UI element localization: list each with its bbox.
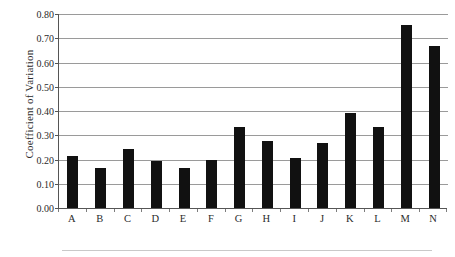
y-axis-tick-label: 0.30 bbox=[37, 130, 55, 141]
x-axis-category-label: B bbox=[86, 213, 114, 231]
x-axis-category-label: A bbox=[58, 213, 86, 231]
bar bbox=[290, 158, 301, 208]
bar bbox=[95, 168, 106, 208]
x-axis-category-label: N bbox=[419, 213, 447, 231]
x-axis-category-label: D bbox=[141, 213, 169, 231]
bar-slot bbox=[142, 14, 170, 208]
bar-slot bbox=[337, 14, 365, 208]
x-axis-category-label: E bbox=[169, 213, 197, 231]
page-rule bbox=[62, 250, 432, 251]
y-axis-tick-labels: 0.000.100.200.300.400.500.600.700.80 bbox=[24, 8, 54, 214]
bar bbox=[67, 156, 78, 208]
bar bbox=[206, 160, 217, 209]
bar-slot bbox=[253, 14, 281, 208]
x-axis-category-label: J bbox=[308, 213, 336, 231]
bar-slot bbox=[281, 14, 309, 208]
bar-slot bbox=[420, 14, 448, 208]
x-axis-category-label: K bbox=[336, 213, 364, 231]
bar-slot bbox=[309, 14, 337, 208]
bar-slot bbox=[392, 14, 420, 208]
x-axis-category-label: G bbox=[225, 213, 253, 231]
bar-slot bbox=[198, 14, 226, 208]
bar bbox=[234, 127, 245, 208]
x-axis-category-label: C bbox=[114, 213, 142, 231]
bar-slot bbox=[226, 14, 254, 208]
bar bbox=[179, 168, 190, 208]
bar bbox=[429, 46, 440, 208]
y-axis-tick-label: 0.10 bbox=[37, 178, 55, 189]
bar bbox=[317, 143, 328, 208]
bar bbox=[151, 161, 162, 208]
y-axis-tick-label: 0.20 bbox=[37, 154, 55, 165]
y-axis-tick-label: 0.40 bbox=[37, 106, 55, 117]
y-axis-tick-label: 0.60 bbox=[37, 57, 55, 68]
bar bbox=[373, 127, 384, 208]
bar bbox=[262, 141, 273, 208]
x-axis-category-label: I bbox=[280, 213, 308, 231]
bar bbox=[123, 149, 134, 208]
bar bbox=[401, 25, 412, 208]
x-axis-category-label: F bbox=[197, 213, 225, 231]
plot-area bbox=[58, 14, 447, 208]
bar-slot bbox=[365, 14, 393, 208]
x-axis-category-labels: ABCDEFGHIJKLMN bbox=[58, 213, 447, 231]
bar-slot bbox=[115, 14, 143, 208]
y-axis-tick-label: 0.00 bbox=[37, 203, 55, 214]
bar bbox=[345, 113, 356, 208]
bar-slot bbox=[87, 14, 115, 208]
x-axis-category-label: L bbox=[364, 213, 392, 231]
x-axis-category-label: H bbox=[252, 213, 280, 231]
bar-chart-figure: Coefficient of Variation 0.000.100.200.3… bbox=[0, 0, 455, 257]
y-axis-tick-label: 0.70 bbox=[37, 33, 55, 44]
bar-slot bbox=[59, 14, 87, 208]
y-axis-tick-label: 0.50 bbox=[37, 81, 55, 92]
bar-series bbox=[59, 14, 448, 208]
x-axis-category-label: M bbox=[391, 213, 419, 231]
y-axis-tick-label: 0.80 bbox=[37, 9, 55, 20]
bar-slot bbox=[170, 14, 198, 208]
